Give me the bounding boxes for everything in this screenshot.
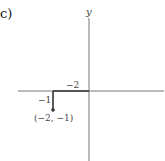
horizontal-segment-label: −2 (66, 81, 79, 90)
coordinate-plane (0, 0, 165, 161)
point-marker (51, 108, 55, 112)
point-label: (−2, −1) (34, 114, 73, 123)
vertical-segment-label: −1 (38, 96, 51, 105)
y-axis-label: y (86, 7, 92, 17)
